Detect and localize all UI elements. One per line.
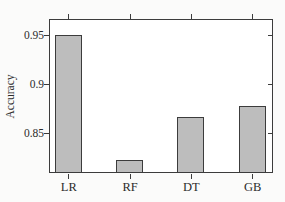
y-tick-mark-left xyxy=(44,133,49,134)
x-tick-label-dt: DT xyxy=(174,180,208,194)
x-tick-mark-top xyxy=(130,14,131,19)
y-axis-label: Accuracy xyxy=(3,20,18,174)
x-tick-mark-bottom xyxy=(68,174,69,179)
x-tick-mark-top xyxy=(252,14,253,19)
y-tick-mark-left xyxy=(44,35,49,36)
plot-area xyxy=(49,19,273,173)
x-tick-label-lr: LR xyxy=(52,180,86,194)
x-tick-mark-bottom xyxy=(130,174,131,179)
x-tick-mark-top xyxy=(191,14,192,19)
x-tick-label-rf: RF xyxy=(113,180,147,194)
y-tick-mark-left xyxy=(44,84,49,85)
accuracy-bar-chart: Accuracy 0.950.90.85LRRFDTGB xyxy=(0,0,285,202)
y-tick-mark-right xyxy=(268,84,273,85)
y-tick-label: 0.95 xyxy=(12,29,44,42)
y-tick-label: 0.85 xyxy=(12,127,44,140)
bar-dt xyxy=(177,117,204,172)
x-tick-mark-top xyxy=(68,14,69,19)
bar-gb xyxy=(239,106,266,172)
y-tick-label: 0.9 xyxy=(12,78,44,91)
bar-lr xyxy=(55,35,82,172)
x-tick-label-gb: GB xyxy=(236,180,270,194)
x-tick-mark-bottom xyxy=(252,174,253,179)
x-tick-mark-bottom xyxy=(191,174,192,179)
y-tick-mark-right xyxy=(268,35,273,36)
bar-rf xyxy=(116,160,143,172)
y-tick-mark-right xyxy=(268,133,273,134)
